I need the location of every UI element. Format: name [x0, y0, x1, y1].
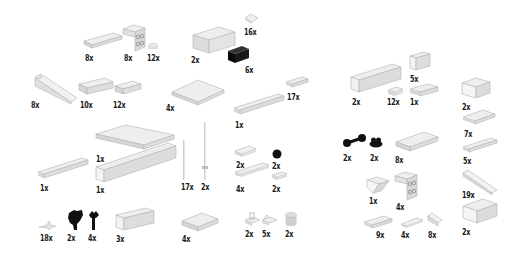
plate-1x8-icon: [234, 94, 286, 116]
plate-1x1-icon: [388, 87, 404, 97]
part-quantity: 4x: [166, 104, 174, 113]
part-quantity: 4x: [396, 203, 404, 212]
tile-icon: [235, 146, 257, 158]
part-quantity: 2x: [245, 230, 253, 239]
part-quantity: 3x: [116, 235, 124, 244]
flower-dark-icon: [88, 211, 100, 231]
part-quantity: 17x: [181, 183, 193, 192]
part-quantity: 8x: [395, 156, 403, 165]
brick-1x12-icon: [96, 143, 178, 185]
clip-plate-icon: [245, 213, 261, 227]
part-quantity: 2x: [462, 228, 470, 237]
part-quantity: 4x: [401, 231, 409, 240]
plate-2x4-icon: [396, 132, 440, 154]
part-quantity: 8x: [31, 101, 39, 110]
brick-1x4-icon: [116, 208, 156, 232]
plate-1x2-icon: [410, 84, 440, 98]
clip-icon: [39, 221, 57, 231]
plate-1x4-icon: [463, 138, 499, 154]
part-quantity: 2x: [285, 230, 293, 239]
part-quantity: 4x: [236, 185, 244, 194]
plate-1x4-icon: [79, 78, 115, 96]
part-quantity: 18x: [40, 234, 52, 243]
part-quantity: 2x: [201, 183, 209, 192]
part-quantity: 2x: [370, 154, 378, 163]
plate-1x3-icon: [364, 216, 394, 230]
plate-4x4-icon: [172, 80, 226, 106]
part-quantity: 2x: [352, 98, 360, 107]
part-quantity: 9x: [376, 231, 384, 240]
round-plate-icon: [148, 43, 158, 51]
tile-icon: [245, 14, 259, 24]
round-dark-icon: [272, 149, 282, 159]
part-quantity: 2x: [343, 154, 351, 163]
plate-2x3-icon: [463, 110, 497, 126]
slope-icon: [33, 74, 79, 104]
dumbbell-dark-icon: [343, 134, 367, 148]
part-quantity: 5x: [410, 75, 418, 84]
part-quantity: 4x: [182, 235, 190, 244]
plate-1x2-icon: [115, 81, 143, 95]
part-quantity: 12x: [147, 54, 159, 63]
part-quantity: 17x: [287, 93, 299, 102]
part-quantity: 4x: [88, 234, 96, 243]
plate-1x6-icon: [38, 158, 90, 180]
clip-plate-icon: [262, 215, 278, 227]
brick-2x3-icon: [463, 199, 499, 225]
part-quantity: 6x: [245, 66, 253, 75]
bracket-icon: [123, 25, 147, 51]
part-quantity: 1x: [369, 197, 377, 206]
part-quantity: 2x: [191, 56, 199, 65]
part-quantity: 1x: [40, 184, 48, 193]
round-brick-icon: [285, 212, 297, 226]
plant-dark-icon: [68, 210, 84, 232]
part-quantity: 1x: [235, 121, 243, 130]
part-quantity: 2x: [67, 234, 75, 243]
brick-1x2-icon: [410, 52, 432, 72]
tile-icon: [401, 218, 425, 230]
tile-icon: [272, 172, 288, 182]
antenna-icon: [201, 122, 209, 180]
plate-1x2-icon: [286, 77, 310, 89]
part-quantity: 12x: [387, 98, 399, 107]
part-quantity: 12x: [113, 101, 125, 110]
part-quantity: 8x: [428, 231, 436, 240]
part-quantity: 5x: [463, 157, 471, 166]
bracket-icon: [395, 172, 419, 200]
part-quantity: 2x: [272, 185, 280, 194]
round-dark-icon: [369, 136, 383, 148]
part-quantity: 16x: [244, 28, 256, 37]
part-quantity: 1x: [96, 186, 104, 195]
slope-inverted-icon: [367, 177, 391, 195]
part-quantity: 8x: [124, 54, 132, 63]
brick-2x2-icon: [462, 78, 492, 100]
part-quantity: 8x: [85, 54, 93, 63]
part-quantity: 1x: [410, 98, 418, 107]
plate-1x4-icon: [84, 33, 124, 49]
tile-icon: [235, 163, 271, 179]
plate-2x4-icon: [182, 213, 220, 233]
bar-icon: [182, 140, 186, 180]
dark-brick-icon: [228, 46, 250, 64]
part-quantity: 5x: [262, 230, 270, 239]
part-quantity: 2x: [272, 162, 280, 171]
part-quantity: 10x: [80, 101, 92, 110]
slope-icon: [428, 213, 444, 227]
